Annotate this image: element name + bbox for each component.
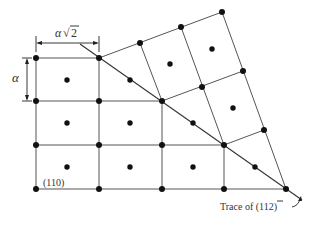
height-dimension: α xyxy=(12,58,32,101)
svg-text:Trace of (112): Trace of (112) xyxy=(220,201,277,213)
svg-text:√: √ xyxy=(63,26,70,40)
twin-lattice-diagram: α √ 2 α (110) Trace of (112) xyxy=(0,0,321,225)
plane-label: (110) xyxy=(43,177,64,189)
height-alpha-label: α xyxy=(12,70,20,85)
width-dimension: α √ 2 xyxy=(36,26,99,52)
width-alpha-label: α xyxy=(55,26,62,40)
parent-lattice xyxy=(36,58,286,189)
svg-text:2: 2 xyxy=(71,26,77,40)
trace-label: Trace of (112) xyxy=(220,196,302,213)
